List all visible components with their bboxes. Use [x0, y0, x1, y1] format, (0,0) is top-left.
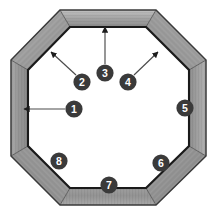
callout-2[interactable]: 2: [73, 73, 90, 90]
callout-8-circle: [50, 152, 67, 169]
callout-3[interactable]: 3: [96, 64, 113, 81]
callout-2-circle: [73, 73, 90, 90]
callout-4[interactable]: 4: [119, 73, 136, 90]
callout-7[interactable]: 7: [100, 176, 117, 193]
callout-6-circle: [152, 154, 169, 171]
callout-5[interactable]: 5: [176, 99, 193, 116]
callout-5-circle: [176, 99, 193, 116]
frame-member-left: [11, 60, 28, 156]
callout-4-circle: [119, 73, 136, 90]
callout-3-circle: [96, 64, 113, 81]
frame-diagram-svg: 1 2 3 4 5 6 7: [0, 0, 216, 215]
callout-6[interactable]: 6: [152, 154, 169, 171]
frame-member-top: [60, 10, 156, 27]
octagonal-frame-diagram: 1 2 3 4 5 6 7: [0, 0, 216, 215]
callout-1[interactable]: 1: [65, 100, 82, 117]
callout-8[interactable]: 8: [50, 152, 67, 169]
callout-1-circle: [65, 100, 82, 117]
callout-7-circle: [100, 176, 117, 193]
